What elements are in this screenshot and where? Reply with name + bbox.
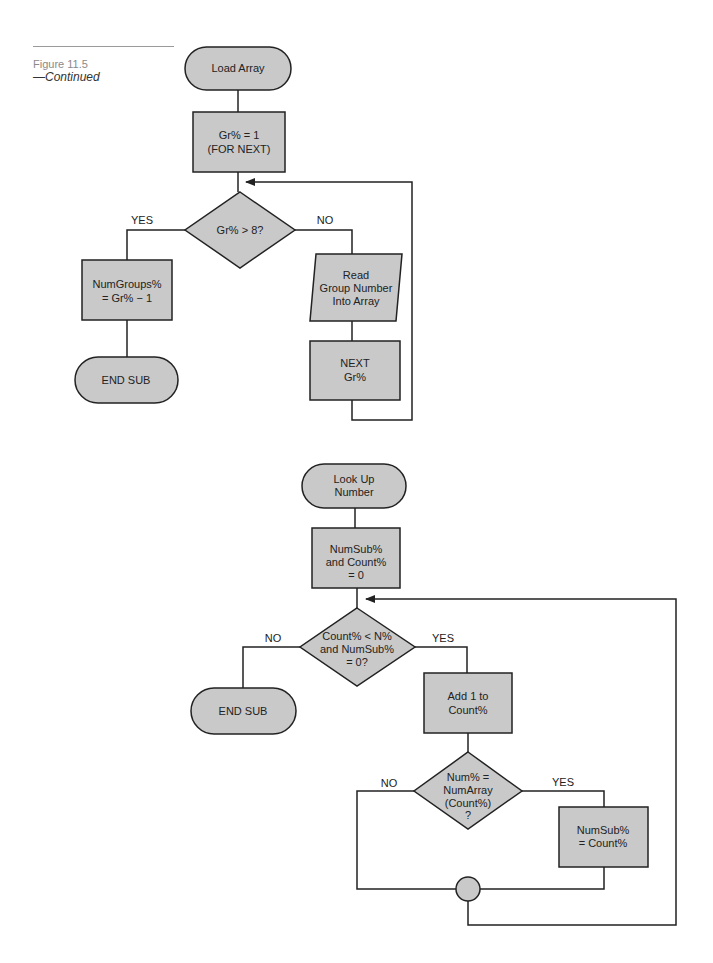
decision-label: Count% < N%	[322, 630, 392, 642]
process-label: Count%	[448, 704, 487, 716]
no-connector	[243, 647, 300, 688]
process-init-gr: Gr% = 1 (FOR NEXT)	[193, 112, 285, 172]
process-label: Gr% = 1	[219, 129, 260, 141]
terminal-load-array: Load Array	[185, 47, 291, 90]
yes-label: YES	[131, 214, 153, 226]
flowchart-canvas: Load Array Gr% = 1 (FOR NEXT) Gr% > 8? Y…	[0, 0, 713, 963]
yes-connector-2	[522, 791, 604, 807]
terminal-label: Number	[334, 486, 373, 498]
input-label: Into Array	[332, 295, 380, 307]
terminal-end-sub: END SUB	[75, 357, 178, 403]
yes-label: YES	[552, 776, 574, 788]
process-label: = Gr% − 1	[102, 292, 152, 304]
yes-connector	[415, 647, 467, 673]
process-label: (FOR NEXT)	[208, 143, 271, 155]
no-label: NO	[265, 632, 282, 644]
decision-label: Gr% > 8?	[217, 224, 264, 236]
no-connector	[295, 230, 352, 254]
process-numgroups: NumGroups% = Gr% − 1	[82, 260, 172, 320]
flowchart-load-array: Load Array Gr% = 1 (FOR NEXT) Gr% > 8? Y…	[75, 47, 412, 420]
process-label: Gr%	[344, 371, 366, 383]
flowchart-look-up-number: Look Up Number NumSub% and Count% = 0 Co…	[191, 464, 676, 925]
input-read-group-number: Read Group Number Into Array	[310, 254, 402, 321]
process-label: Add 1 to	[448, 690, 489, 702]
process-label: NumGroups%	[92, 278, 161, 290]
terminal-end-sub-2: END SUB	[191, 688, 296, 734]
terminal-label: END SUB	[219, 705, 268, 717]
terminal-label: Load Array	[211, 62, 265, 74]
process-label: = 0	[348, 569, 364, 581]
process-label: = Count%	[579, 837, 628, 849]
terminal-look-up-number: Look Up Number	[302, 464, 406, 508]
decision-num-eq-numarray: Num% = NumArray (Count%) ?	[414, 752, 522, 829]
process-label: NumSub%	[577, 824, 630, 836]
decision-gr-gt-8: Gr% > 8?	[185, 192, 295, 268]
process-label: NEXT	[340, 357, 370, 369]
process-label: and Count%	[326, 556, 387, 568]
connector-circle	[456, 877, 480, 901]
decision-label: = 0?	[346, 656, 368, 668]
decision-label: (Count%)	[445, 797, 491, 809]
process-add-1-to-count: Add 1 to Count%	[424, 673, 512, 733]
process-numsub-eq-count: NumSub% = Count%	[559, 807, 648, 867]
decision-label: Num% =	[447, 771, 490, 783]
decision-label: and NumSub%	[320, 643, 394, 655]
process-label: NumSub%	[330, 543, 383, 555]
decision-label: NumArray	[443, 784, 493, 796]
connector	[480, 867, 604, 889]
decision-label: ?	[465, 809, 471, 821]
terminal-label: Look Up	[334, 473, 375, 485]
process-init-numsub-count: NumSub% and Count% = 0	[312, 528, 400, 588]
yes-connector	[127, 230, 185, 260]
no-label: NO	[381, 777, 398, 789]
input-label: Group Number	[320, 282, 393, 294]
input-label: Read	[343, 269, 369, 281]
yes-label: YES	[432, 632, 454, 644]
decision-count-lt-n: Count% < N% and NumSub% = 0?	[300, 608, 415, 686]
terminal-label: END SUB	[102, 374, 151, 386]
process-next-gr: NEXT Gr%	[310, 341, 400, 400]
no-label: NO	[317, 214, 334, 226]
